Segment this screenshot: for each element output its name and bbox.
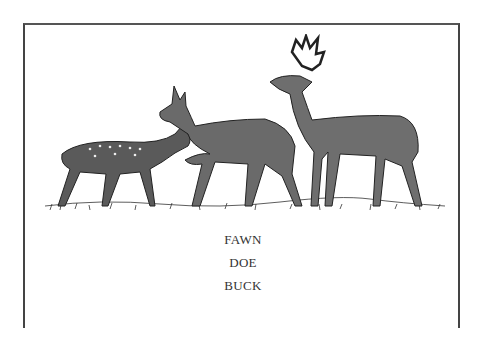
label-buck: BUCK xyxy=(0,278,486,301)
caption: FAWN DOE BUCK xyxy=(0,232,486,301)
label-doe: DOE xyxy=(0,255,486,278)
label-fawn: FAWN xyxy=(0,232,486,255)
deer-illustration xyxy=(40,34,450,219)
fawn xyxy=(58,126,190,206)
